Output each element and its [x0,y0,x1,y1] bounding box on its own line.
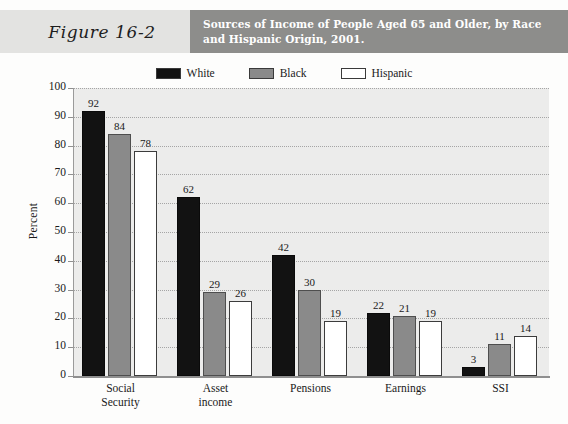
x-tick-label-social-security: SocialSecurity [73,381,168,409]
figure-title-text: Sources of Income of People Aged 65 and … [203,17,560,46]
bar-pensions-white [272,255,295,376]
bar-value-label: 30 [292,276,327,288]
bar-value-label: 62 [171,183,206,195]
legend-item-hispanic: Hispanic [341,67,413,79]
x-tick-label-ssi: SSI [453,381,548,395]
bar-social-security-white [82,111,105,376]
bar-value-label: 14 [508,322,543,334]
y-tick-label: 0 [20,368,66,380]
bar-earnings-white [367,313,390,376]
legend-swatch-icon [249,68,274,79]
figure-title-cell: Sources of Income of People Aged 65 and … [190,10,568,53]
x-tick-label-line: income [199,396,233,408]
bar-value-label: 19 [318,307,353,319]
y-tick-label: 70 [20,166,66,178]
bar-asset-income-black [203,292,226,376]
figure-header-band: Figure 16-2 Sources of Income of People … [0,10,568,53]
bar-value-label: 26 [223,287,258,299]
bar-pensions-black [298,290,321,376]
bar-earnings-black [393,316,416,376]
gridline [74,117,549,118]
legend-label: White [187,67,215,79]
x-tick-label-line: Asset [203,382,229,394]
legend-item-black: Black [249,67,307,79]
bar-value-label: 84 [102,120,137,132]
legend-item-white: White [156,67,215,79]
y-tick-label: 30 [20,282,66,294]
bar-value-label: 19 [413,307,448,319]
y-tick-label: 50 [20,224,66,236]
x-axis-baseline [73,376,550,378]
figure-number-label: Figure 16-2 [34,22,155,42]
y-tick-label: 80 [20,138,66,150]
bar-social-security-hispanic [134,151,157,376]
y-tick-label: 90 [20,109,66,121]
bar-social-security-black [108,134,131,376]
bar-ssi-white [462,367,485,376]
legend-swatch-icon [341,68,366,79]
x-tick-label-line: Social [106,382,135,394]
y-tick-label: 40 [20,253,66,265]
gridline [74,88,549,89]
bar-ssi-black [488,344,511,376]
bar-pensions-hispanic [324,321,347,376]
y-tick-label: 60 [20,195,66,207]
legend-label: Hispanic [372,67,413,79]
bar-asset-income-hispanic [229,301,252,376]
bar-value-label: 3 [456,353,491,365]
bar-value-label: 78 [128,137,163,149]
x-tick-label-asset-income: Assetincome [168,381,263,409]
bar-value-label: 42 [266,241,301,253]
bar-value-label: 92 [76,97,111,109]
y-tick-label: 20 [20,310,66,322]
x-tick-label-line: SSI [492,382,509,394]
figure-page: Figure 16-2 Sources of Income of People … [0,0,568,424]
x-tick-label-line: Pensions [290,382,331,394]
figure-number-cell: Figure 16-2 [0,10,190,53]
plot-canvas: 92847862292642301922211931114 [74,88,549,376]
legend-label: Black [280,67,307,79]
x-tick-label-line: Security [101,396,139,408]
legend-swatch-icon [156,68,181,79]
x-tick-label-earnings: Earnings [358,381,453,395]
bar-earnings-hispanic [419,321,442,376]
y-tick-label: 10 [20,339,66,351]
x-tick-label-line: Earnings [385,382,426,394]
x-tick-label-pensions: Pensions [263,381,358,395]
y-tick-label: 100 [20,80,66,92]
plot-area: 92847862292642301922211931114 [73,88,549,376]
y-axis-title: Percent [27,181,39,261]
bar-ssi-hispanic [514,336,537,376]
chart-legend: WhiteBlackHispanic [0,64,568,82]
